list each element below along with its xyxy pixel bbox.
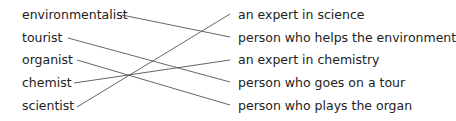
line-chemist — [74, 60, 230, 83]
definition-goes-on-tour: person who goes on a tour — [238, 75, 405, 91]
definition-expert-science: an expert in science — [238, 7, 364, 23]
definition-helps-environment: person who helps the environment — [238, 30, 456, 46]
definition-expert-chemistry: an expert in chemistry — [238, 52, 380, 68]
word-environmentalist: environmentalist — [22, 7, 128, 23]
word-tourist: tourist — [22, 30, 63, 46]
word-chemist: chemist — [22, 75, 72, 91]
line-scientist — [77, 14, 230, 107]
line-organist — [77, 60, 230, 105]
word-organist: organist — [22, 52, 73, 68]
line-tourist — [68, 38, 230, 82]
line-environmentalist — [122, 15, 230, 37]
word-scientist: scientist — [22, 98, 74, 114]
definition-plays-organ: person who plays the organ — [238, 98, 412, 114]
